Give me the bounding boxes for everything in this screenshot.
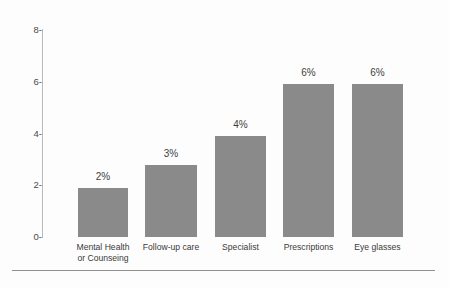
- bar-value-label: 6%: [370, 67, 384, 78]
- category-label-line1: Eye glasses: [354, 242, 400, 253]
- bar[interactable]: [215, 136, 266, 237]
- bar-group[interactable]: 3%Follow-up care: [145, 165, 197, 237]
- bar-group[interactable]: 6%Eye glasses: [352, 84, 403, 237]
- bar[interactable]: [78, 188, 128, 237]
- bars-layer: 2%Mental Healthor Counseing3%Follow-up c…: [0, 0, 449, 288]
- bar-value-label: 3%: [164, 148, 178, 159]
- bar[interactable]: [145, 165, 197, 237]
- x-axis-category-label: Specialist: [222, 242, 259, 253]
- bar-group[interactable]: 2%Mental Healthor Counseing: [78, 188, 128, 237]
- x-axis-category-label: Eye glasses: [354, 242, 400, 253]
- bar-value-label: 6%: [301, 67, 315, 78]
- bar-group[interactable]: 6%Prescriptions: [283, 84, 334, 237]
- category-label-line1: Prescriptions: [284, 242, 334, 253]
- bar-value-label: 2%: [96, 171, 110, 182]
- x-axis-category-label: Mental Healthor Counseing: [76, 242, 129, 263]
- bar[interactable]: [352, 84, 403, 237]
- x-axis-category-label: Follow-up care: [143, 242, 199, 253]
- category-label-line1: Follow-up care: [143, 242, 199, 253]
- bar[interactable]: [283, 84, 334, 237]
- category-label-line1: Specialist: [222, 242, 259, 253]
- bar-value-label: 4%: [233, 119, 247, 130]
- category-label-line2: or Counseing: [76, 253, 129, 264]
- x-axis-category-label: Prescriptions: [284, 242, 334, 253]
- bar-chart: 8-6-4-2-0- 2%Mental Healthor Counseing3%…: [0, 0, 449, 288]
- bar-group[interactable]: 4%Specialist: [215, 136, 266, 237]
- footer-divider: [12, 270, 435, 271]
- category-label-line1: Mental Health: [76, 242, 129, 253]
